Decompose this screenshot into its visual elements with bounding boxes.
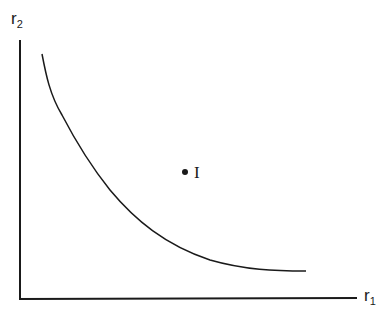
diagram-svg	[0, 0, 386, 321]
diagram-canvas: r2 r1 I	[0, 0, 386, 321]
indifference-curve	[42, 54, 306, 271]
y-axis-label: r2	[11, 10, 23, 30]
point-label: I	[194, 164, 200, 181]
point-dot	[182, 169, 188, 175]
y-axis-label-sub: 2	[17, 18, 23, 30]
x-axis-label: r1	[364, 287, 376, 307]
x-axis	[19, 298, 357, 299]
x-axis-label-sub: 1	[370, 295, 376, 307]
